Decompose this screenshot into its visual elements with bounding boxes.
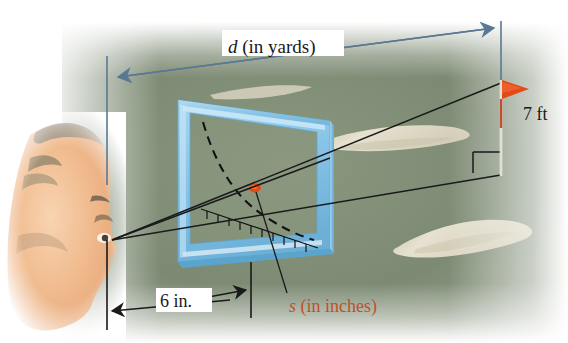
figure-canvas: d (in yards) 7 ft 6 in. s (in inches)	[0, 0, 568, 343]
label-eye-to-card: 6 in.	[160, 291, 192, 312]
label-flag-height: 7 ft	[523, 104, 548, 125]
label-s-symbol: s	[289, 296, 296, 316]
label-scale-reading: s (in inches)	[289, 296, 377, 317]
label-d-symbol: d	[228, 36, 238, 57]
label-s-unit: (in inches)	[301, 296, 377, 316]
label-distance-d: d (in yards)	[228, 36, 316, 58]
label-d-unit: (in yards)	[242, 36, 315, 57]
